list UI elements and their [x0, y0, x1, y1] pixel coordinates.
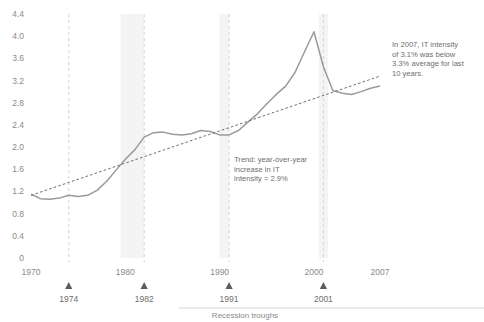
x-axis-tick-labels: 19701980199020002007	[22, 267, 390, 277]
recession-shading-group	[121, 14, 329, 258]
y-axis-tick-label: 2.4	[12, 120, 24, 130]
intensity-annotation: In 2007, IT intensityof 3.1% was below3.…	[392, 40, 465, 78]
y-axis-tick-label: 4.4	[12, 9, 24, 19]
annotation-line: increase in IT	[234, 165, 280, 174]
x-axis-tick-label: 2000	[305, 267, 324, 277]
trough-marker-label: 1982	[135, 294, 154, 304]
y-axis-tick-label: 0.8	[12, 209, 24, 219]
y-axis-tick-label: 0.4	[12, 231, 24, 241]
y-axis-tick-label: 1.6	[12, 164, 24, 174]
x-axis-tick-label: 1970	[22, 267, 41, 277]
annotation-line: 3.3% average for last	[392, 59, 465, 68]
recession-trough-markers: 1974198219912001	[59, 282, 333, 304]
y-axis-tick-label: 2.0	[12, 142, 24, 152]
chart-container: 00.40.81.21.62.02.42.83.23.64.04.4 19701…	[0, 0, 484, 322]
trough-marker-label: 1974	[59, 294, 78, 304]
trough-marker-label: 2001	[314, 294, 333, 304]
annotation-line: intensity = 2.9%	[234, 174, 288, 183]
annotation-line: of 3.1% was below	[392, 50, 456, 59]
x-axis-tick-label: 2007	[371, 267, 390, 277]
x-axis-tick-label: 1980	[116, 267, 135, 277]
annotation-line: Trend: year-over-year	[234, 155, 308, 164]
y-axis-tick-label: 2.8	[12, 98, 24, 108]
y-axis-tick-label: 4.0	[12, 31, 24, 41]
line-chart: 00.40.81.21.62.02.42.83.23.64.04.4 19701…	[0, 0, 484, 322]
trend-annotation: Trend: year-over-yearincrease in ITinten…	[234, 155, 308, 183]
x-axis-tick-label: 1990	[210, 267, 229, 277]
y-axis-tick-label: 1.2	[12, 186, 24, 196]
recession-band	[220, 14, 229, 258]
recession-troughs-caption: Recession troughs	[212, 311, 278, 320]
trough-marker-label: 1991	[220, 294, 239, 304]
y-axis-tick-label: 3.2	[12, 76, 24, 86]
y-axis-tick-label: 3.6	[12, 53, 24, 63]
trough-gridline-group	[69, 14, 324, 262]
y-axis-tick-labels: 00.40.81.21.62.02.42.83.23.64.04.4	[12, 9, 24, 263]
annotation-line: In 2007, IT intensity	[392, 40, 458, 49]
annotation-line: 10 years.	[392, 69, 423, 78]
y-axis-tick-label: 0	[19, 253, 24, 263]
trough-marker-triangle	[320, 282, 327, 289]
trough-marker-triangle	[225, 282, 232, 289]
trough-marker-triangle	[141, 282, 148, 289]
trough-marker-triangle	[65, 282, 72, 289]
recession-band	[121, 14, 145, 258]
